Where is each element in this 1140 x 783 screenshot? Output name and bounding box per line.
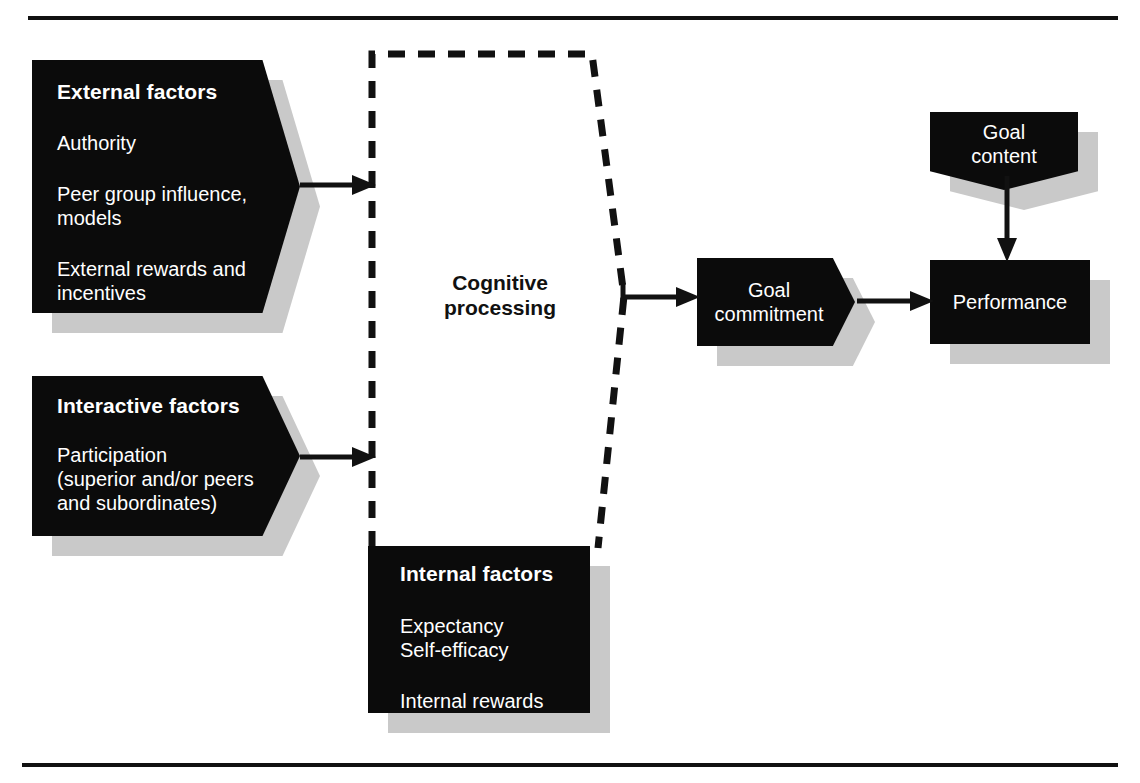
arrow-interactive-to-cognitive (300, 444, 380, 470)
performance-label: Performance (953, 290, 1068, 314)
external-factors-heading: External factors (57, 80, 300, 104)
internal-factors-item-0: Expectancy (400, 614, 590, 638)
external-factors-item-2: External rewards andincentives (57, 257, 300, 305)
interactive-factors-item-0: Participation(superior and/or peersand s… (57, 443, 300, 515)
node-performance[interactable]: Performance (930, 260, 1090, 344)
node-goal-commitment[interactable]: Goalcommitment (697, 258, 855, 346)
bottom-divider-rule (22, 763, 1118, 767)
cognitive-processing-label: Cognitiveprocessing (415, 270, 585, 320)
arrow-external-to-cognitive (300, 172, 380, 198)
internal-factors-item-2: Internal rewards (400, 689, 590, 713)
node-label-group: Interactive factors Participation(superi… (32, 376, 300, 536)
goal-content-label: Goalcontent (971, 120, 1037, 168)
node-label-group: Goalcommitment (697, 258, 855, 346)
node-external-factors[interactable]: External factors Authority Peer group in… (32, 60, 300, 313)
node-internal-factors[interactable]: Internal factors Expectancy Self-efficac… (368, 546, 590, 713)
internal-factors-item-1: Self-efficacy (400, 638, 590, 662)
external-factors-item-0: Authority (57, 131, 300, 155)
arrow-cognitive-to-goal-commitment (620, 278, 706, 316)
diagram-canvas: Cognitiveprocessing External factors Aut… (0, 0, 1140, 783)
goal-commitment-label: Goalcommitment (715, 278, 824, 326)
arrow-goal-content-to-performance (992, 176, 1022, 268)
node-label-group: External factors Authority Peer group in… (32, 60, 300, 313)
node-interactive-factors[interactable]: Interactive factors Participation(superi… (32, 376, 300, 536)
interactive-factors-heading: Interactive factors (57, 394, 300, 418)
internal-factors-heading: Internal factors (400, 562, 590, 586)
top-divider-rule (28, 16, 1118, 20)
node-label-group: Internal factors Expectancy Self-efficac… (368, 546, 590, 713)
external-factors-item-1: Peer group influence,models (57, 182, 300, 230)
arrow-goal-commitment-to-performance (857, 288, 939, 314)
node-label-group: Performance (930, 260, 1090, 344)
